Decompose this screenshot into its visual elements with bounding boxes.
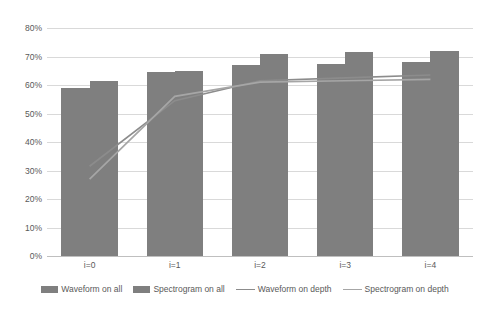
y-axis-tick-label: 10% bbox=[6, 224, 42, 233]
x-axis: i=0i=1i=2i=3i=4 bbox=[47, 260, 473, 274]
legend-item[interactable]: Spectrogram on depth bbox=[343, 285, 449, 294]
legend-item[interactable]: Waveform on all bbox=[41, 285, 122, 294]
line-series bbox=[90, 75, 431, 166]
y-axis-tick-label: 70% bbox=[6, 53, 42, 62]
legend-item[interactable]: Waveform on depth bbox=[236, 285, 332, 294]
y-axis-tick-label: 50% bbox=[6, 110, 42, 119]
gridline bbox=[47, 256, 473, 257]
y-axis-tick-label: 40% bbox=[6, 138, 42, 147]
x-axis-tick-label: i=0 bbox=[47, 260, 132, 270]
bar-swatch-icon bbox=[133, 286, 150, 293]
chart-legend: Waveform on allSpectrogram on allWavefor… bbox=[0, 285, 490, 294]
plot-area bbox=[47, 28, 473, 256]
legend-item[interactable]: Spectrogram on all bbox=[133, 285, 224, 294]
y-axis-tick-label: 60% bbox=[6, 81, 42, 90]
legend-label: Waveform on depth bbox=[258, 285, 332, 294]
legend-label: Spectrogram on all bbox=[153, 285, 224, 294]
x-axis-tick-label: i=1 bbox=[132, 260, 217, 270]
y-axis-tick-label: 0% bbox=[6, 252, 42, 261]
legend-label: Spectrogram on depth bbox=[365, 285, 449, 294]
chart-container: 80%70%60%50%40%30%20%10%0% i=0i=1i=2i=3i… bbox=[0, 0, 490, 311]
y-axis-tick-label: 30% bbox=[6, 167, 42, 176]
x-axis-tick-label: i=2 bbox=[217, 260, 302, 270]
line-series bbox=[90, 79, 431, 179]
line-swatch-icon bbox=[343, 289, 362, 290]
line-series-layer bbox=[47, 28, 473, 256]
legend-label: Waveform on all bbox=[61, 285, 122, 294]
bar-swatch-icon bbox=[41, 286, 58, 293]
line-swatch-icon bbox=[236, 289, 255, 290]
x-axis-tick-label: i=3 bbox=[303, 260, 388, 270]
y-axis-tick-label: 20% bbox=[6, 195, 42, 204]
y-axis-tick-label: 80% bbox=[6, 24, 42, 33]
x-axis-tick-label: i=4 bbox=[388, 260, 473, 270]
